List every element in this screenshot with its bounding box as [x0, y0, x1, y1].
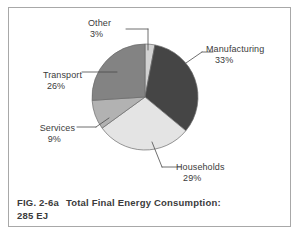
pie-label-other-name: Other [88, 18, 111, 28]
leader-line-manufacturing [186, 52, 202, 63]
pie-label-households-percent: 29% [176, 173, 225, 184]
pie-slice-group [92, 44, 198, 150]
pie-label-other-percent: 3% [88, 29, 111, 40]
pie-label-services-name: Services [40, 123, 75, 133]
pie-label-households-name: Households [176, 162, 225, 172]
figure-subtitle: 285 EJ [17, 210, 48, 221]
pie-label-manufacturing: Manufacturing 33% [206, 44, 264, 66]
pie-label-services-percent: 9% [40, 134, 75, 145]
pie-label-households: Households 29% [176, 162, 225, 184]
figure-number: FIG. 2-6a [17, 197, 59, 208]
figure-caption: FIG. 2-6aTotal Final Energy Consumption:… [17, 196, 275, 222]
pie-label-transport-percent: 26% [43, 81, 82, 92]
figure-title: Total Final Energy Consumption: [59, 197, 221, 208]
pie-label-other: Other 3% [88, 18, 111, 40]
pie-label-transport: Transport 26% [43, 70, 82, 92]
figure-page: Manufacturing 33% Transport 26% Services… [0, 0, 300, 236]
pie-label-services: Services 9% [40, 123, 75, 145]
pie-label-transport-name: Transport [43, 70, 82, 80]
pie-label-manufacturing-name: Manufacturing [206, 44, 264, 54]
pie-label-manufacturing-percent: 33% [206, 55, 264, 66]
